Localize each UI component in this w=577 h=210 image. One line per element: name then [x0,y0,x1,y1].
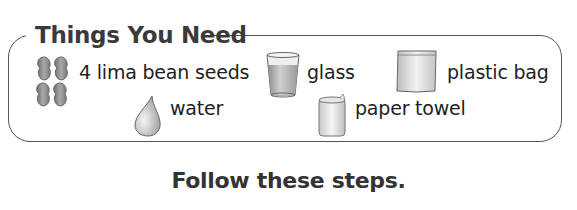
item-glass: glass [307,61,355,83]
item-lima-beans: 4 lima bean seeds [79,61,249,83]
lima-beans-icon [35,55,73,110]
follow-steps-heading: Follow these steps. [0,168,577,193]
panel-title: Things You Need [35,22,247,48]
water-drop-icon [132,95,164,137]
item-water: water [170,97,223,119]
plastic-bag-icon [395,49,439,95]
item-plastic-bag: plastic bag [447,61,549,83]
paper-towel-icon [316,93,348,139]
item-paper-towel: paper towel [355,97,466,119]
glass-icon [265,51,301,99]
